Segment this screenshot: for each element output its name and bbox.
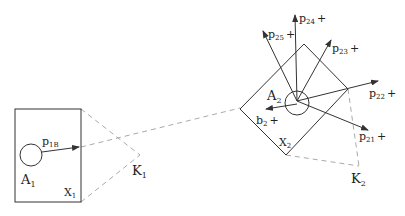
right-region: p25+ p24+ p23+ p22+ p21+ b2+ A2 X2 [240, 12, 396, 155]
dashed-connectors [81, 89, 359, 202]
label-a1: A1 [20, 172, 35, 189]
label-p22: p22+ [369, 87, 396, 101]
dash-box2-right-to-k2 [348, 89, 359, 166]
arrow-p22 [297, 81, 378, 101]
region-x2-box [240, 44, 348, 155]
label-x1: X1 [64, 186, 76, 200]
label-p25: p25+ [268, 28, 295, 42]
label-p1b: p1B [42, 135, 59, 149]
agent-a1-circle [20, 144, 42, 166]
arrow-b2 [266, 104, 297, 109]
left-region: p1B A1 X1 [15, 109, 81, 202]
label-p24: p24+ [299, 12, 326, 26]
label-p23: p23+ [332, 42, 359, 56]
label-p21: p21+ [359, 130, 386, 144]
arrow-p23 [297, 40, 331, 101]
dash-box2-bottom-to-k2 [286, 155, 359, 166]
arrow-p24 [295, 15, 297, 101]
label-x2: X2 [279, 136, 291, 150]
label-k2: K2 [351, 171, 366, 188]
label-k1: K1 [132, 163, 147, 180]
diagram-canvas: p1B A1 X1 K1 p25+ p24+ p23+ p22+ p21+ b2… [0, 0, 405, 216]
dash-box1-top-to-k1 [81, 109, 140, 155]
label-a2: A2 [266, 88, 281, 105]
label-b2: b2+ [256, 114, 279, 128]
